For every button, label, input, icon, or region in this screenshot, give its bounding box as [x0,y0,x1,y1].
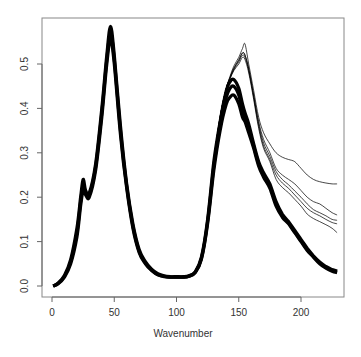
plot-frame [42,18,344,297]
y-tick-label: 0.1 [19,234,30,248]
x-tick-label: 100 [168,307,185,318]
y-tick-label: 0.0 [19,279,30,293]
x-axis-title: Wavenumber [153,328,213,339]
x-tick-label: 0 [49,307,55,318]
series-lines [53,26,337,286]
y-tick-label: 0.5 [19,57,30,71]
y-tick-label: 0.2 [19,190,30,204]
x-tick-label: 200 [293,307,310,318]
y-tick-label: 0.4 [19,101,30,115]
y-axis: 0.00.10.20.30.40.5 [19,57,42,293]
x-tick-label: 150 [230,307,247,318]
x-axis: 050100150200 [49,297,310,318]
spectra-line-chart: 050100150200 0.00.10.20.30.40.5 Wavenumb… [0,0,361,357]
series-line-bundle-main-high [53,26,337,286]
y-tick-label: 0.3 [19,145,30,159]
x-tick-label: 50 [109,307,121,318]
